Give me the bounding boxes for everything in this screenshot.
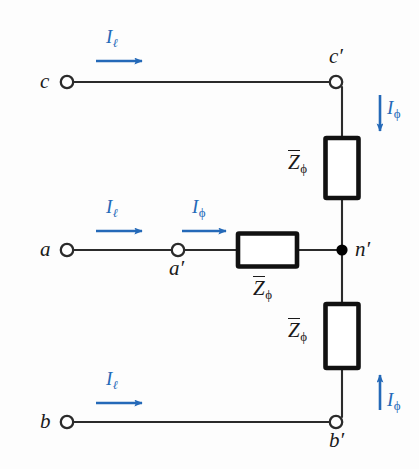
label-terminal-b: b <box>40 411 51 432</box>
label-c-prime-base: c <box>329 44 338 68</box>
phase-current-subscript-a: ϕ <box>198 205 205 220</box>
phase-current-subscript-c: ϕ <box>393 106 400 121</box>
impedance-subscript-b: ϕ <box>300 329 307 344</box>
impedance-symbol-a: Z <box>253 276 265 300</box>
label-b-prime-base: b <box>329 428 340 452</box>
terminal-a-prime <box>172 244 184 256</box>
label-line-current-c: Iℓ <box>106 27 118 49</box>
terminal-b-prime <box>330 416 342 428</box>
terminal-c-prime <box>330 76 342 88</box>
label-a-prime-base: a <box>169 256 180 280</box>
label-phase-current-c: Iϕ <box>387 98 401 120</box>
line-current-subscript-b: ℓ <box>112 378 118 392</box>
impedance-overbar-c: Z <box>288 150 300 173</box>
line-current-subscript-c: ℓ <box>112 36 118 50</box>
node-n-prime <box>336 244 347 255</box>
prime-mark-c: ′ <box>338 44 343 68</box>
impedance-box-z-c <box>326 138 359 198</box>
circuit-schematic-canvas <box>0 0 419 469</box>
impedance-subscript-c: ϕ <box>300 161 307 176</box>
label-impedance-z-c: Zϕ <box>288 150 307 175</box>
impedance-box-z-a <box>238 234 297 267</box>
label-impedance-z-b: Zϕ <box>288 318 307 343</box>
label-phase-current-a: Iϕ <box>192 197 206 219</box>
label-terminal-b-prime: b′ <box>329 430 344 451</box>
label-terminal-c-prime: c′ <box>329 46 343 67</box>
impedance-box-z-b <box>326 304 359 368</box>
phase-current-subscript-b: ϕ <box>393 398 400 413</box>
label-terminal-a-prime: a′ <box>169 258 184 279</box>
label-node-n-prime: n′ <box>355 239 370 260</box>
prime-mark-n: ′ <box>366 237 371 261</box>
impedance-overbar-b: Z <box>288 318 300 341</box>
terminal-a <box>61 244 73 256</box>
impedance-symbol-c: Z <box>288 150 300 174</box>
terminal-b <box>61 416 73 428</box>
prime-mark-b: ′ <box>340 428 345 452</box>
label-line-current-a: Iℓ <box>106 197 118 219</box>
label-impedance-z-a: Zϕ <box>253 276 272 301</box>
impedance-symbol-b: Z <box>288 318 300 342</box>
prime-mark-a: ′ <box>180 256 185 280</box>
terminal-c <box>61 76 73 88</box>
line-current-subscript-a: ℓ <box>112 206 118 220</box>
label-terminal-a: a <box>40 239 51 260</box>
circuit-diagram: c a b c′ a′ b′ n′ Iℓ Iℓ Iℓ Iϕ Iϕ Iϕ Zϕ Z… <box>0 0 419 469</box>
terminals <box>61 76 342 428</box>
label-line-current-b: Iℓ <box>106 369 118 391</box>
label-phase-current-b: Iϕ <box>387 390 401 412</box>
label-n-prime-base: n <box>355 237 366 261</box>
label-terminal-c: c <box>40 71 49 92</box>
impedance-subscript-a: ϕ <box>265 287 272 302</box>
impedance-overbar-a: Z <box>253 276 265 299</box>
